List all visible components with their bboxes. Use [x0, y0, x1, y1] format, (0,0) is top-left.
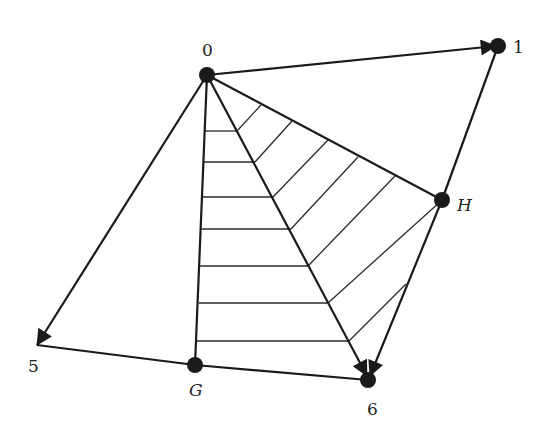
edge-G-6	[195, 365, 368, 380]
label-node-0: 0	[202, 40, 213, 60]
edge-5-G	[37, 345, 195, 365]
label-node-H: H	[456, 195, 473, 215]
hatch-line	[349, 284, 406, 341]
hatch-line	[308, 176, 395, 266]
edge-0-to-1	[207, 46, 496, 75]
hatch-line	[255, 121, 292, 162]
hatch-line	[328, 201, 441, 303]
hatch-line	[237, 105, 261, 131]
labels-group: 0 1 H 5 G 6	[28, 37, 524, 419]
graph-diagram: 0 1 H 5 G 6	[0, 0, 553, 426]
edge-0-to-6	[207, 75, 367, 376]
edge-0-G	[195, 75, 207, 365]
node-6	[360, 372, 376, 388]
edge-H-to-6	[370, 200, 442, 376]
hatch-horizontal-group	[197, 131, 349, 341]
label-node-5: 5	[28, 356, 39, 376]
node-1	[490, 38, 506, 54]
edge-1-H	[442, 46, 498, 200]
edges-group	[37, 46, 498, 380]
node-0	[199, 67, 215, 83]
node-H	[434, 192, 450, 208]
edge-0-to-5	[37, 75, 207, 345]
label-node-1: 1	[513, 37, 524, 57]
hatch-line	[273, 140, 328, 197]
label-node-6: 6	[367, 399, 378, 419]
label-node-G: G	[189, 380, 203, 400]
edge-0-H	[207, 75, 442, 200]
node-G	[187, 357, 203, 373]
hatch-diagonal-group	[237, 105, 441, 341]
